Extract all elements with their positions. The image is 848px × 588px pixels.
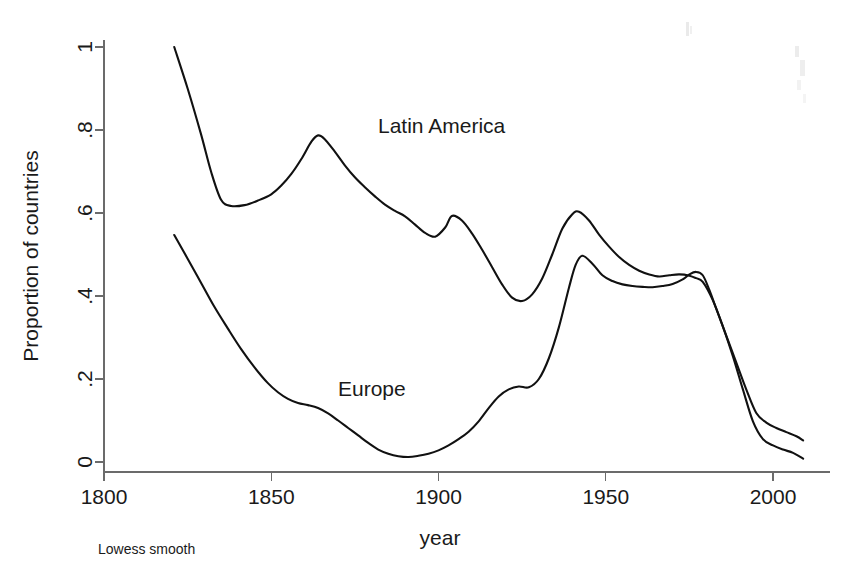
line-chart-canvas: 0.2.4.6.81 18001850190019502000 Proporti… [0,0,848,588]
series-label-latin-america: Latin America [378,114,506,137]
data-series-group [174,47,803,459]
chart-figure: 0.2.4.6.81 18001850190019502000 Proporti… [0,0,848,588]
y-tick-label: .4 [73,287,96,305]
x-tick-label: 1900 [415,485,462,508]
x-tick-label: 1850 [248,485,295,508]
series-label-europe: Europe [338,377,406,400]
y-tick-label: .2 [73,370,96,388]
y-tick-label: .8 [73,121,96,139]
y-tick-label: 0 [73,456,96,468]
y-tick-label: .6 [73,204,96,222]
y-tick-label: 1 [73,41,96,53]
x-tick-label: 1800 [81,485,128,508]
y-axis-title: Proportion of countries [19,150,42,361]
axes [95,40,830,481]
series-line-latin-america [174,47,803,459]
scan-artifacts [686,22,806,103]
x-axis-ticks [104,472,773,481]
x-tick-label: 2000 [750,485,797,508]
series-line-europe [174,235,803,457]
chart-note: Lowess smooth [98,541,195,557]
x-tick-label: 1950 [582,485,629,508]
y-axis-tick-labels: 0.2.4.6.81 [73,41,96,468]
x-axis-title: year [420,526,461,549]
y-axis-ticks [95,47,104,462]
x-axis-tick-labels: 18001850190019502000 [81,485,797,508]
